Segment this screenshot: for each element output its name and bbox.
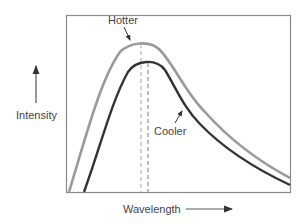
cooler-curve xyxy=(84,62,290,192)
cooler-pointer-arrow xyxy=(175,111,182,123)
hotter-curve xyxy=(69,43,290,192)
y-axis-label: Intensity xyxy=(16,110,57,121)
hotter-label: Hotter xyxy=(108,15,138,26)
plot-frame xyxy=(67,16,291,193)
x-axis-label: Wavelength xyxy=(123,204,181,215)
cooler-label: Cooler xyxy=(154,126,186,137)
hotter-pointer-arrow xyxy=(124,27,130,40)
